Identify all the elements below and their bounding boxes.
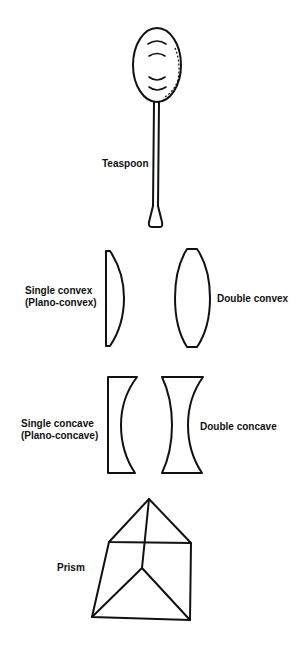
spoon-bowl: [133, 28, 181, 102]
plano-convex-label-line2: (Plano-convex): [25, 297, 97, 309]
spoon-handle: [149, 102, 162, 227]
plano-concave-label-line1: Single concave: [21, 418, 94, 430]
plano-convex-label-line1: Single convex: [25, 285, 92, 297]
prism-label: Prism: [57, 562, 85, 574]
prism-figure: [92, 499, 191, 620]
double-convex-label: Double convex: [217, 293, 288, 305]
double-concave-label: Double concave: [200, 421, 277, 433]
plano-concave-label-line2: (Plano-concave): [21, 430, 98, 442]
double-concave-lens: [162, 377, 203, 473]
diagram-canvas: [0, 0, 303, 660]
teaspoon-label: Teaspoon: [102, 158, 148, 170]
plano-convex-lens: [106, 251, 124, 346]
plano-concave-lens: [108, 377, 137, 473]
double-convex-lens: [175, 249, 210, 347]
teaspoon-figure: [133, 28, 181, 227]
